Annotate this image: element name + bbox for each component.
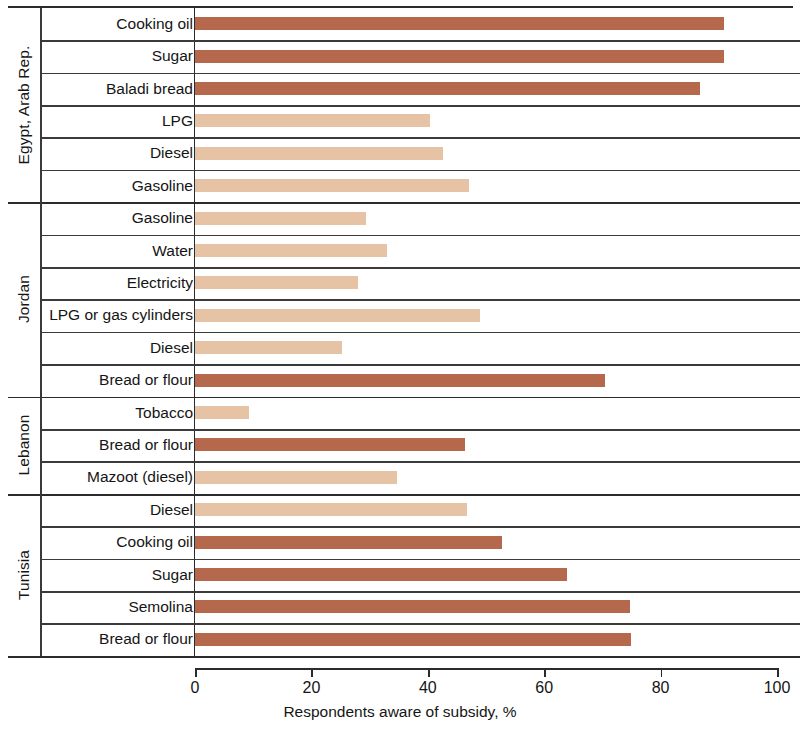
x-axis-tick-label: 20 bbox=[302, 679, 320, 697]
bar-track bbox=[195, 397, 790, 429]
bar-track bbox=[195, 40, 790, 72]
bar bbox=[195, 82, 700, 95]
bar bbox=[195, 179, 469, 192]
chart-row: Sugar bbox=[0, 559, 800, 591]
chart-row: LPG bbox=[0, 105, 800, 137]
bar-track bbox=[195, 559, 790, 591]
bar-track bbox=[195, 137, 790, 169]
category-label: Diesel bbox=[44, 137, 193, 169]
bar bbox=[195, 309, 480, 322]
bar-track bbox=[195, 299, 790, 331]
category-label: Cooking oil bbox=[44, 8, 193, 40]
x-axis-tick bbox=[661, 668, 663, 677]
chart-row: Cooking oil bbox=[0, 8, 800, 40]
category-label: Semolina bbox=[44, 591, 193, 623]
category-label: Cooking oil bbox=[44, 526, 193, 558]
x-axis-tick-label: 60 bbox=[535, 679, 553, 697]
category-label: Mazoot (diesel) bbox=[44, 461, 193, 493]
category-label: Water bbox=[44, 235, 193, 267]
x-axis-tick-label: 40 bbox=[419, 679, 437, 697]
bar bbox=[195, 471, 397, 484]
group-separator bbox=[8, 656, 800, 658]
bar bbox=[195, 406, 249, 419]
x-axis-tick-label: 80 bbox=[652, 679, 670, 697]
x-axis-tick bbox=[428, 668, 430, 677]
x-axis-tick bbox=[195, 668, 197, 677]
x-axis-tick bbox=[311, 668, 313, 677]
bar bbox=[195, 276, 358, 289]
bar bbox=[195, 536, 502, 549]
category-label: Sugar bbox=[44, 40, 193, 72]
x-axis-tick-label: 0 bbox=[191, 679, 200, 697]
chart-row: Bread or flour bbox=[0, 364, 800, 396]
bar-track bbox=[195, 170, 790, 202]
bar-track bbox=[195, 8, 790, 40]
bar-track bbox=[195, 73, 790, 105]
category-label: Diesel bbox=[44, 494, 193, 526]
chart-row: Water bbox=[0, 235, 800, 267]
chart-row: Diesel bbox=[0, 332, 800, 364]
category-label: Sugar bbox=[44, 559, 193, 591]
chart-row: Gasoline bbox=[0, 202, 800, 234]
bar bbox=[195, 341, 342, 354]
bar-track bbox=[195, 429, 790, 461]
x-axis-tick bbox=[544, 668, 546, 677]
category-label: Gasoline bbox=[44, 170, 193, 202]
chart-row: Mazoot (diesel) bbox=[0, 461, 800, 493]
bar bbox=[195, 17, 724, 30]
chart-row: Sugar bbox=[0, 40, 800, 72]
x-axis-title: Respondents aware of subsidy, % bbox=[0, 703, 800, 721]
bar bbox=[195, 633, 631, 646]
chart-row: Bread or flour bbox=[0, 623, 800, 655]
chart-row: Cooking oil bbox=[0, 526, 800, 558]
bar-track bbox=[195, 267, 790, 299]
chart-row: Tobacco bbox=[0, 397, 800, 429]
bar bbox=[195, 600, 630, 613]
category-label: LPG or gas cylinders bbox=[44, 299, 193, 331]
category-label: Bread or flour bbox=[44, 364, 193, 396]
bar-track bbox=[195, 461, 790, 493]
chart-row: Electricity bbox=[0, 267, 800, 299]
bar-track bbox=[195, 332, 790, 364]
bar bbox=[195, 503, 467, 516]
chart-group: LebanonTobaccoBread or flourMazoot (dies… bbox=[0, 397, 800, 494]
horizontal-bar-chart: Egypt, Arab Rep.Cooking oilSugarBaladi b… bbox=[0, 0, 800, 740]
bar bbox=[195, 147, 443, 160]
chart-row: Diesel bbox=[0, 494, 800, 526]
x-axis-tick-label: 100 bbox=[764, 679, 791, 697]
chart-row: Gasoline bbox=[0, 170, 800, 202]
bar-track bbox=[195, 105, 790, 137]
chart-group: TunisiaDieselCooking oilSugarSemolinaBre… bbox=[0, 494, 800, 656]
category-label: Bread or flour bbox=[44, 429, 193, 461]
bar-track bbox=[195, 591, 790, 623]
x-axis-line bbox=[195, 668, 777, 670]
bar-track bbox=[195, 364, 790, 396]
bar bbox=[195, 374, 605, 387]
category-label: Gasoline bbox=[44, 202, 193, 234]
category-label: Tobacco bbox=[44, 397, 193, 429]
chart-row: Diesel bbox=[0, 137, 800, 169]
bar bbox=[195, 212, 366, 225]
x-axis-tick bbox=[777, 668, 779, 677]
bar-track bbox=[195, 202, 790, 234]
bar-track bbox=[195, 494, 790, 526]
chart-row: Bread or flour bbox=[0, 429, 800, 461]
chart-row: LPG or gas cylinders bbox=[0, 299, 800, 331]
category-label: Electricity bbox=[44, 267, 193, 299]
chart-row: Semolina bbox=[0, 591, 800, 623]
category-label: LPG bbox=[44, 105, 193, 137]
bar bbox=[195, 244, 387, 257]
category-label: Diesel bbox=[44, 332, 193, 364]
category-label: Baladi bread bbox=[44, 73, 193, 105]
bar-track bbox=[195, 526, 790, 558]
chart-group: Egypt, Arab Rep.Cooking oilSugarBaladi b… bbox=[0, 8, 800, 202]
bar bbox=[195, 50, 724, 63]
chart-group: JordanGasolineWaterElectricityLPG or gas… bbox=[0, 202, 800, 396]
bar bbox=[195, 568, 567, 581]
bar bbox=[195, 114, 430, 127]
chart-row: Baladi bread bbox=[0, 73, 800, 105]
bar-track bbox=[195, 623, 790, 655]
bar-track bbox=[195, 235, 790, 267]
bar bbox=[195, 438, 465, 451]
category-label: Bread or flour bbox=[44, 623, 193, 655]
